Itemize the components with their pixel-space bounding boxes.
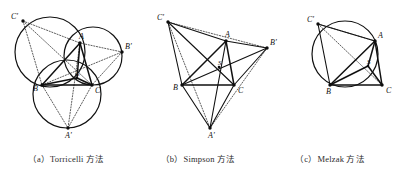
circumcircle-BCA' <box>33 60 101 128</box>
label-C: C <box>95 86 101 95</box>
label-C-prime: C' <box>157 13 164 22</box>
caption-panel-b: （b）Simpson 方法 <box>132 148 264 170</box>
vertex-B-prime <box>120 50 123 53</box>
circumcircle-ACB' <box>64 27 122 85</box>
caption-panel-c: （c）Melzak 方法 <box>264 148 396 170</box>
label-B-prime: B' <box>270 38 277 47</box>
vertex-C-prime <box>21 19 24 22</box>
caption-panel-a: （a）Torricelli 方法 <box>0 148 132 170</box>
segment-Cp-B <box>168 22 182 85</box>
label-C-prime: C' <box>307 15 314 24</box>
label-C-prime: C' <box>11 12 18 21</box>
vertex-B <box>180 83 183 86</box>
label-A: A <box>224 30 230 39</box>
label-B: B <box>326 87 331 96</box>
vertex-A-prime <box>66 126 69 129</box>
dotted-segment-A-Bp <box>80 43 122 52</box>
segment-Cp-A <box>168 22 226 41</box>
panel-torricelli: ABCA'B'C'S <box>11 12 132 140</box>
label-A: A <box>78 32 84 41</box>
label-B: B <box>173 83 178 92</box>
dotted-segment-Cp-Bp <box>168 22 267 48</box>
dotted-segment-Bp-C <box>92 52 122 85</box>
dotted-segment-Cp-C <box>23 21 92 85</box>
vertex-A <box>373 39 376 42</box>
vertex-B-prime <box>265 46 268 49</box>
segment-Bp-C <box>234 48 267 85</box>
segment-B-Ap <box>182 85 210 128</box>
label-B-prime: B' <box>125 42 132 51</box>
label-A: A <box>377 31 383 40</box>
vertex-C <box>232 83 235 86</box>
segment-A-Bp <box>226 41 267 48</box>
label-A-prime: A' <box>207 131 215 140</box>
label-A-prime: A' <box>64 131 72 140</box>
segment-C-A <box>375 41 382 85</box>
label-C: C <box>386 86 392 95</box>
vertex-C <box>90 83 93 86</box>
vertex-B <box>40 83 43 86</box>
label-S: S <box>218 59 222 67</box>
panel-melzak: ABCC'S <box>307 15 392 96</box>
dotted-segment-B-Ap <box>42 85 68 128</box>
label-S: S <box>76 70 80 78</box>
figure-three-steiner-constructions: ABCA'B'C'S ABCA'B'C'S ABCC'S （a）Torricel… <box>0 0 396 175</box>
label-C: C <box>238 86 244 95</box>
vertex-A <box>78 41 81 44</box>
dotted-segment-Cp-B <box>23 21 42 85</box>
panel-simpson: ABCA'B'C'S <box>157 13 277 140</box>
caption-row: （a）Torricelli 方法 （b）Simpson 方法 （c）Melzak… <box>0 148 396 170</box>
vertex-C-prime <box>316 22 319 25</box>
label-B: B <box>33 84 38 93</box>
dotted-segment-Ap-C <box>68 85 92 128</box>
vertex-A-prime <box>208 126 211 129</box>
label-S: S <box>367 58 371 66</box>
vertex-C-prime <box>166 20 169 23</box>
vertex-A <box>224 39 227 42</box>
vertex-C <box>380 83 383 86</box>
